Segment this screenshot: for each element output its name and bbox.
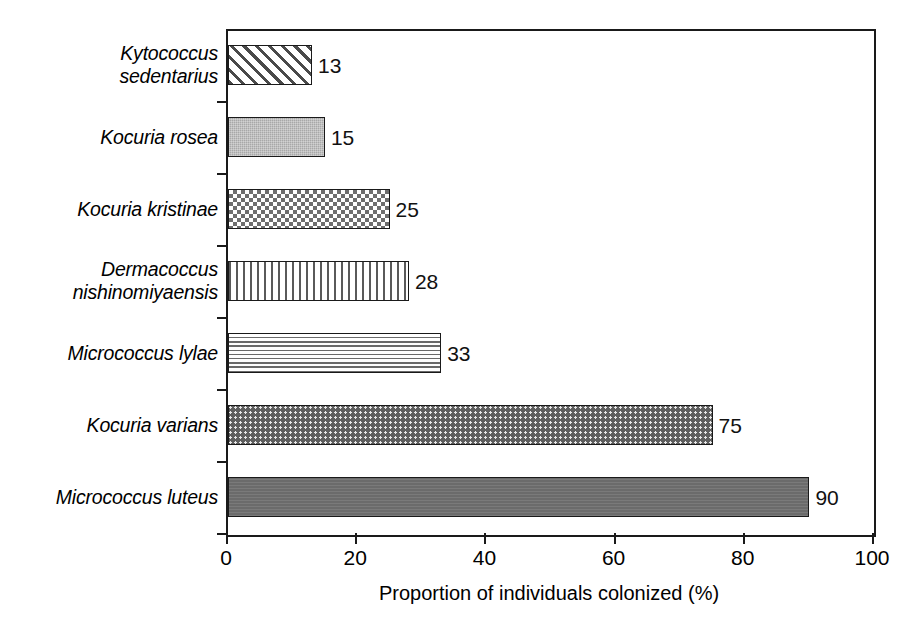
- chart-row: Kocuria kristinae 25: [0, 173, 920, 245]
- bar-value-label: 28: [415, 271, 438, 292]
- bar-chart: Kytococcus sedentarius 13 Kocuria rosea …: [0, 0, 920, 623]
- y-axis-tick: [217, 173, 227, 175]
- chart-row: Micrococcus luteus 90: [0, 461, 920, 533]
- category-label: Dermacoccus nishinomiyaensis: [0, 258, 218, 304]
- bar-group: 15: [228, 117, 354, 157]
- y-axis-tick: [217, 101, 227, 103]
- bar-group: 75: [228, 405, 742, 445]
- bar-value-label: 33: [447, 343, 470, 364]
- bar[interactable]: [228, 117, 325, 157]
- bar-group: 33: [228, 333, 471, 373]
- bar-value-label: 90: [815, 487, 838, 508]
- bar-group: 25: [228, 189, 419, 229]
- chart-row: Micrococcus lylae 33: [0, 317, 920, 389]
- bar-group: 90: [228, 477, 839, 517]
- category-label: Kocuria rosea: [0, 126, 218, 149]
- x-axis-title: Proportion of individuals colonized (%): [226, 583, 872, 603]
- y-axis-tick: [217, 389, 227, 391]
- x-axis-tick: [743, 533, 745, 544]
- x-axis-tick-label: 0: [191, 547, 261, 568]
- chart-row: Kytococcus sedentarius 13: [0, 29, 920, 101]
- bar-group: 28: [228, 261, 438, 301]
- bar-value-label: 13: [318, 55, 341, 76]
- x-axis-tick: [614, 533, 616, 544]
- x-axis-tick-label: 60: [579, 547, 649, 568]
- chart-row: Dermacoccus nishinomiyaensis 28: [0, 245, 920, 317]
- chart-row: Kocuria rosea 15: [0, 101, 920, 173]
- x-axis-tick: [484, 533, 486, 544]
- category-label: Micrococcus luteus: [0, 486, 218, 509]
- bar[interactable]: [228, 189, 390, 229]
- bar-value-label: 75: [719, 415, 742, 436]
- bar-value-label: 25: [396, 199, 419, 220]
- x-axis-tick-label: 80: [708, 547, 778, 568]
- category-label: Kocuria varians: [0, 414, 218, 437]
- x-axis-tick: [355, 533, 357, 544]
- y-axis-tick: [217, 317, 227, 319]
- bar[interactable]: [228, 405, 713, 445]
- bar-value-label: 15: [331, 127, 354, 148]
- x-axis-tick: [226, 533, 228, 544]
- x-axis-tick-label: 40: [449, 547, 519, 568]
- bar[interactable]: [228, 261, 409, 301]
- y-axis-tick: [217, 461, 227, 463]
- bar-group: 13: [228, 45, 341, 85]
- bar[interactable]: [228, 477, 809, 517]
- x-axis-tick: [872, 533, 874, 544]
- category-label: Kocuria kristinae: [0, 198, 218, 221]
- y-axis-tick: [217, 245, 227, 247]
- category-label: Kytococcus sedentarius: [0, 42, 218, 88]
- chart-row: Kocuria varians 75: [0, 389, 920, 461]
- x-axis-tick-label: 100: [837, 547, 907, 568]
- category-label: Micrococcus lylae: [0, 342, 218, 365]
- bar[interactable]: [228, 333, 441, 373]
- x-axis-tick-label: 20: [320, 547, 390, 568]
- bar[interactable]: [228, 45, 312, 85]
